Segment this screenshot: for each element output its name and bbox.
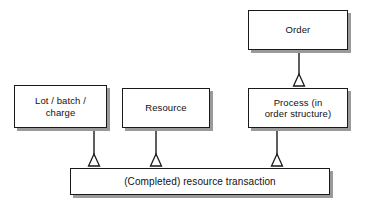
hollow-triangle-marker [89, 154, 100, 166]
entity-box-process[interactable]: Process (in order structure) [248, 88, 348, 128]
connector-lot-to-transaction [89, 128, 100, 166]
connector-order-to-process [294, 50, 305, 86]
entity-box-resource-transaction[interactable]: (Completed) resource transaction [70, 168, 330, 195]
connector-process-to-transaction [272, 128, 283, 166]
entity-label-process: Process (in order structure) [262, 97, 335, 120]
entity-label-order: Order [283, 24, 314, 36]
entity-box-resource[interactable]: Resource [122, 88, 210, 128]
diagram-canvas: Order Lot / batch / charge Resource Proc… [0, 0, 366, 212]
entity-box-lot-batch-charge[interactable]: Lot / batch / charge [14, 85, 107, 128]
hollow-triangle-marker [272, 154, 283, 166]
entity-box-order[interactable]: Order [248, 10, 348, 50]
entity-label-resource: Resource [142, 102, 189, 114]
hollow-triangle-marker [294, 74, 305, 86]
hollow-triangle-marker [151, 154, 162, 166]
entity-label-lot-batch-charge: Lot / batch / charge [32, 95, 89, 118]
entity-label-resource-transaction: (Completed) resource transaction [121, 176, 279, 188]
connector-resource-to-transaction [151, 128, 162, 166]
